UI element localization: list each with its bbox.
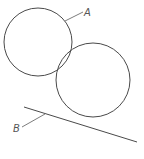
tangent-line [24,107,137,142]
diagram-canvas: A B [0,0,144,159]
leader-b [22,114,45,127]
label-a: A [83,7,91,18]
circle-a [4,8,72,76]
circle-lower [56,43,130,117]
label-b: B [13,123,20,134]
leader-a [65,12,83,21]
